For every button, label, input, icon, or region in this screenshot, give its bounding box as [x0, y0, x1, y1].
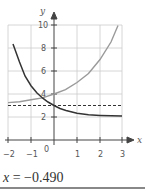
svg-text:1: 1: [75, 150, 80, 159]
svg-text:2: 2: [98, 150, 103, 159]
svg-text:8: 8: [41, 44, 46, 53]
tick-labels: −2 −1 0 1 2 3 10 8 6 4 2 y x: [3, 6, 142, 159]
svg-text:6: 6: [41, 67, 46, 76]
svg-text:−2: −2: [3, 150, 15, 159]
svg-text:10: 10: [38, 21, 48, 30]
function-graph: −2 −1 0 1 2 3 10 8 6 4 2 y x: [0, 0, 145, 165]
svg-text:0: 0: [44, 145, 49, 154]
x-axis-label: x: [137, 135, 142, 145]
y-axis-label: y: [39, 6, 46, 16]
divider: [0, 187, 145, 189]
svg-text:2: 2: [41, 113, 46, 122]
svg-text:−1: −1: [26, 150, 38, 159]
grid: [8, 25, 122, 140]
result-text: x = −0.490: [3, 170, 64, 186]
y-arrow-icon: [51, 12, 57, 19]
x-arrow-icon: [127, 137, 134, 143]
increasing-curve: [8, 26, 118, 103]
result-value: = −0.490: [9, 170, 63, 185]
svg-text:3: 3: [120, 150, 125, 159]
